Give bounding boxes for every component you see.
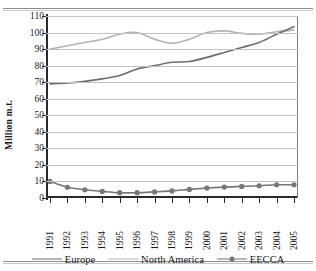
top-divider-rule (3, 8, 313, 9)
data-point-marker (82, 187, 87, 192)
data-point-marker (291, 182, 296, 187)
data-point-marker (117, 190, 122, 195)
x-tick-mark (50, 198, 51, 203)
data-point-marker (152, 189, 157, 194)
data-point-marker (100, 189, 105, 194)
y-tick-label: 0 (18, 194, 44, 203)
y-tick-mark (42, 132, 46, 133)
line-chart-figure: Million m.t. 1101009080706050403020100 1… (0, 10, 316, 260)
y-tick-label: 20 (18, 160, 44, 169)
x-tick-label: 2004 (271, 204, 283, 250)
x-tick-mark (207, 198, 208, 203)
data-point-marker (65, 185, 70, 190)
y-tick-label: 80 (18, 61, 44, 70)
y-axis-line (46, 14, 48, 200)
legend-label: EECCA (250, 254, 284, 265)
y-tick-label: 100 (18, 28, 44, 37)
gridline (46, 132, 298, 133)
plot-right-border (297, 16, 298, 198)
y-axis-tick-labels: 1101009080706050403020100 (12, 10, 44, 260)
x-tick-label: 1995 (114, 204, 126, 250)
y-tick-mark (42, 33, 46, 34)
x-tick-label: 1999 (183, 204, 195, 250)
data-point-marker (257, 183, 262, 188)
y-tick-label: 110 (18, 12, 44, 21)
x-tick-label: 1991 (44, 204, 56, 250)
x-tick-mark (67, 198, 68, 203)
x-tick-mark (155, 198, 156, 203)
y-tick-label: 60 (18, 94, 44, 103)
y-tick-label: 10 (18, 177, 44, 186)
legend-item-europe: Europe (32, 254, 95, 265)
gridline (46, 16, 298, 17)
x-axis-tick-labels: 1991199219931994199519961997199819992000… (46, 204, 298, 256)
y-tick-label: 70 (18, 78, 44, 87)
x-tick-mark (189, 198, 190, 203)
gridline (46, 99, 298, 100)
x-tick-mark (277, 198, 278, 203)
x-tick-label: 1998 (166, 204, 178, 250)
x-tick-label: 1993 (79, 204, 91, 250)
data-point-marker (239, 184, 244, 189)
x-tick-label: 2001 (218, 204, 230, 250)
gridline (46, 148, 298, 149)
data-point-marker (135, 190, 140, 195)
x-tick-mark (120, 198, 121, 203)
data-point-marker (204, 185, 209, 190)
y-tick-mark (42, 198, 46, 199)
x-tick-mark (224, 198, 225, 203)
gridline (46, 33, 298, 34)
x-tick-label: 2003 (253, 204, 265, 250)
y-tick-mark (42, 16, 46, 17)
legend-item-eecca: EECCA (217, 254, 284, 265)
y-tick-mark (42, 66, 46, 67)
legend-label: North America (141, 254, 204, 265)
x-tick-label: 1996 (131, 204, 143, 250)
legend-swatch-icon (32, 254, 62, 264)
legend-swatch-icon (217, 254, 247, 264)
legend-swatch-icon (108, 254, 138, 264)
x-tick-mark (102, 198, 103, 203)
series-line-europe (50, 27, 294, 84)
plot-area (46, 16, 298, 198)
legend-item-north-america: North America (108, 254, 204, 265)
y-tick-mark (42, 181, 46, 182)
x-tick-label: 1992 (61, 204, 73, 250)
y-tick-label: 30 (18, 144, 44, 153)
y-tick-label: 90 (18, 45, 44, 54)
y-tick-label: 40 (18, 127, 44, 136)
x-tick-label: 2002 (236, 204, 248, 250)
gridline (46, 66, 298, 67)
x-tick-label: 2005 (288, 204, 300, 250)
data-point-marker (169, 188, 174, 193)
series-lines (46, 16, 298, 198)
gridline (46, 181, 298, 182)
gridline (46, 115, 298, 116)
x-tick-mark (172, 198, 173, 203)
gridline (46, 82, 298, 83)
x-tick-mark (137, 198, 138, 203)
x-tick-mark (242, 198, 243, 203)
chart-legend: EuropeNorth AmericaEECCA (0, 250, 316, 268)
x-tick-label: 1994 (96, 204, 108, 250)
gridline (46, 165, 298, 166)
data-point-marker (187, 187, 192, 192)
x-tick-label: 1997 (149, 204, 161, 250)
y-tick-mark (42, 99, 46, 100)
x-tick-mark (85, 198, 86, 203)
y-tick-mark (42, 115, 46, 116)
data-point-marker (222, 184, 227, 189)
x-tick-mark (294, 198, 295, 203)
data-point-marker (274, 182, 279, 187)
y-tick-label: 50 (18, 111, 44, 120)
x-tick-mark (259, 198, 260, 203)
x-tick-label: 2000 (201, 204, 213, 250)
y-tick-mark (42, 49, 46, 50)
y-tick-mark (42, 165, 46, 166)
y-tick-mark (42, 82, 46, 83)
y-tick-mark (42, 148, 46, 149)
legend-label: Europe (65, 254, 95, 265)
gridline (46, 49, 298, 50)
